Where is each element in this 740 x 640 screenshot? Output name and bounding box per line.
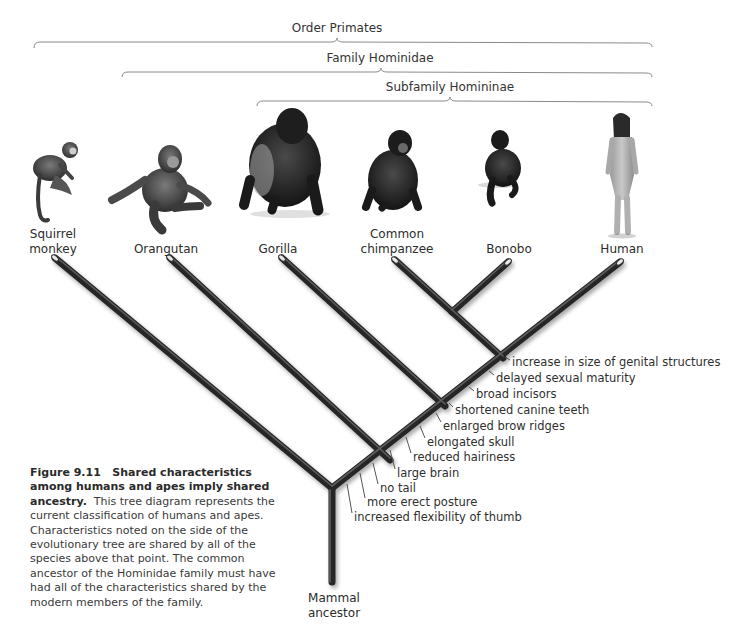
bracket-label-order: Order Primates [292,21,383,35]
gorilla-illustration [244,108,330,218]
figure-caption: Figure 9.11 Shared characteristics among… [30,466,280,610]
trait-large-brain: large brain [397,466,459,480]
species-label-orangutan: Orangutan [134,242,198,257]
species-label-chimpanzee: Common chimpanzee [361,227,434,257]
species-label-bonobo: Bonobo [486,242,531,257]
species-label-gorilla: Gorilla [259,242,298,257]
bracket-order-primates [34,38,652,48]
root-label-line1: Mammal [308,591,360,606]
bracket-family-hominidae [122,68,652,77]
bracket-label-family: Family Hominidae [326,51,433,65]
species-name-line2: monkey [29,242,77,257]
species-name-line2: chimpanzee [361,242,434,257]
trait-shortened-canines: shortened canine teeth [455,403,589,417]
human-illustration [608,113,636,239]
bracket-subfamily-homininae [257,97,652,106]
chimpanzee-illustration [366,130,418,210]
trait-no-tail: no tail [380,481,416,495]
species-label-squirrel-monkey: Squirrel monkey [29,227,77,257]
squirrel-monkey-illustration [33,142,78,220]
branch-chimpanzee [395,260,503,358]
bonobo-illustration [478,130,521,203]
trait-erect-posture: more erect posture [367,495,477,509]
trait-brow-ridges: enlarged brow ridges [443,419,565,433]
figure-number: Figure 9.11 [30,466,101,479]
trait-thumb-flexibility: increased flexibility of thumb [354,510,522,524]
trait-genital-structures: increase in size of genital structures [512,355,720,369]
root-label-line2: ancestor [308,606,360,621]
trait-broad-incisors: broad incisors [476,387,557,401]
bracket-label-subfamily: Subfamily Homininae [386,80,514,94]
root-label-mammal-ancestor: Mammal ancestor [308,591,360,621]
orangutan-illustration [112,145,208,230]
species-name-line1: Common [361,227,434,242]
species-name-line1: Squirrel [29,227,77,242]
figure-caption-body: This tree diagram represents the current… [30,495,275,609]
trait-elongated-skull: elongated skull [427,435,514,449]
branch-bonobo [452,262,508,312]
trait-delayed-maturity: delayed sexual maturity [496,371,636,385]
species-label-human: Human [600,242,643,257]
trait-reduced-hairiness: reduced hairiness [413,450,515,464]
branch-orangutan [170,258,390,460]
